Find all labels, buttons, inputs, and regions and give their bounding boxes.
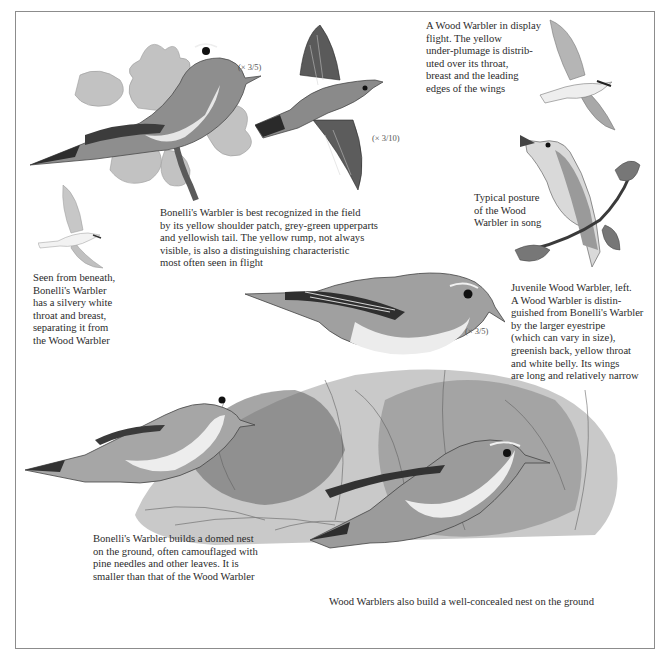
caption-song-posture: Typical posture of the Wood Warbler in s…: [474, 192, 574, 230]
caption-bonelli-nest: Bonelli's Warbler builds a domed nest on…: [93, 533, 293, 583]
bonelli-beneath-illustration: [38, 185, 108, 270]
caption-juvenile-wood: Juvenile Wood Warbler, left. A Wood Warb…: [511, 282, 671, 383]
bird-icon: [25, 20, 285, 205]
caption-wood-nest: Wood Warblers also build a well-conceale…: [329, 596, 629, 609]
bonelli-flying-illustration: [255, 25, 385, 190]
bird-icon: [38, 185, 108, 270]
caption-bonelli-field-marks: Bonelli's Warbler is best recognized in …: [160, 207, 410, 270]
scale-label-perched-wood: (× 3/5): [465, 326, 488, 336]
bonelli-perched-illustration: [25, 20, 285, 205]
caption-from-beneath: Seen from beneath, Bonelli's Warbler has…: [33, 272, 143, 348]
scale-label-flying-bonelli: (× 3/10): [372, 133, 400, 143]
bird-icon: [255, 25, 385, 190]
caption-display-flight: A Wood Warbler in display flight. The ye…: [426, 20, 576, 96]
